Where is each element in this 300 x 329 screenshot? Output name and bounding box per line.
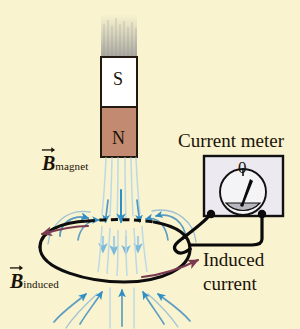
magnet-north-pole-label: N xyxy=(112,128,125,149)
b-magnet-label: Bmagnet xyxy=(42,152,88,175)
meter-terminal-left[interactable] xyxy=(207,210,215,218)
b-magnet-symbol: B xyxy=(42,152,55,174)
b-magnet-subscript: magnet xyxy=(55,160,88,172)
b-induced-subscript: induced xyxy=(23,278,59,290)
meter-pivot xyxy=(240,203,244,207)
magnet-south-pole-label: S xyxy=(113,69,123,90)
current-meter-label: Current meter xyxy=(178,131,284,150)
induced-current-label-line1: Induced xyxy=(203,250,264,269)
meter-zero-label: 0 xyxy=(238,158,247,178)
figure-canvas: Current meter Induced current Bmagnet Bi… xyxy=(0,0,300,329)
b-induced-symbol: B xyxy=(10,270,23,292)
induced-current-label-line2: current xyxy=(203,274,257,293)
b-induced-label: Binduced xyxy=(10,270,59,293)
meter-terminal-right[interactable] xyxy=(258,210,266,218)
magnet-motion-blur xyxy=(101,14,137,58)
